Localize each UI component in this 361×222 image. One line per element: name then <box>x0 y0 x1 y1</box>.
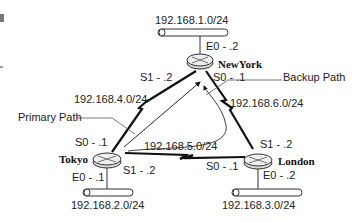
link-label-newyork-london: 192.168.6.0/24 <box>230 97 303 109</box>
router-name-tokyo: Tokyo <box>59 153 88 165</box>
interface-label-tokyo-s1: S1 - .2 <box>123 164 155 176</box>
interface-label-newyork-e0: E0 - .2 <box>206 40 238 52</box>
link-label-tokyo-newyork: 192.168.4.0/24 <box>74 93 147 105</box>
network-diagram: 192.168.1.0/24 E0 - .2 NewYork S0 - .1 S… <box>0 0 361 222</box>
router-newyork[interactable] <box>187 54 213 69</box>
lan-label-london: 192.168.3.0/24 <box>222 199 295 211</box>
lan-label-tokyo: 192.168.2.0/24 <box>71 199 144 211</box>
backup-path-label: Backup Path <box>283 71 345 83</box>
router-london[interactable] <box>244 154 272 169</box>
interface-label-tokyo-s0: S0 - .1 <box>75 136 107 148</box>
router-name-london: London <box>278 155 315 167</box>
router-name-newyork: NewYork <box>218 58 263 70</box>
interface-label-newyork-s1: S1 - .2 <box>140 71 172 83</box>
interface-label-newyork-s0: S0 - .1 <box>213 71 245 83</box>
interface-label-london-s1: S1 - .2 <box>260 138 292 150</box>
interface-label-london-e0: E0 - .2 <box>263 169 295 181</box>
interface-label-london-s0: S0 - .1 <box>206 160 238 172</box>
link-label-tokyo-london: 192.168.5.0/24 <box>144 140 217 152</box>
lan-label-newyork: 192.168.1.0/24 <box>155 14 228 26</box>
router-tokyo[interactable] <box>93 153 121 168</box>
serial-link-tokyo-london <box>125 153 245 159</box>
primary-path-label: Primary Path <box>18 111 82 123</box>
interface-label-tokyo-e0: E0 - .1 <box>72 171 104 183</box>
